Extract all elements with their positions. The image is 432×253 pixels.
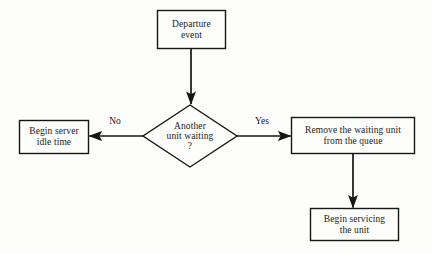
shape-begin-servicing bbox=[311, 209, 399, 241]
edge-label-no: No bbox=[103, 116, 127, 127]
shape-decision-diamond bbox=[143, 105, 237, 167]
shape-begin-idle bbox=[20, 121, 89, 154]
flowchart-canvas: Departure event Another unit waiting ? B… bbox=[0, 0, 432, 253]
flowchart-connectors bbox=[0, 0, 432, 253]
shape-departure-event bbox=[158, 11, 226, 49]
edge-label-yes: Yes bbox=[250, 116, 274, 127]
shape-remove-unit bbox=[292, 118, 415, 154]
